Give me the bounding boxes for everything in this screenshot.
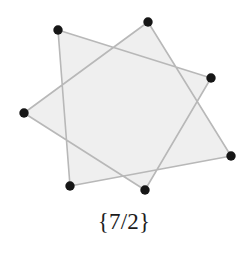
vertex-dot-upper-right xyxy=(206,73,215,82)
vertex-dot-upper-left xyxy=(53,25,62,34)
vertex-dot-left xyxy=(19,108,28,117)
figure-caption: {7/2} xyxy=(0,208,248,236)
star-polygon-figure: {7/2} xyxy=(0,0,248,254)
vertex-dot-top xyxy=(143,17,152,26)
vertex-dot-lower-right xyxy=(226,151,235,160)
vertex-dot-bottom-left xyxy=(65,181,74,190)
vertex-dot-bottom-center xyxy=(140,185,149,194)
